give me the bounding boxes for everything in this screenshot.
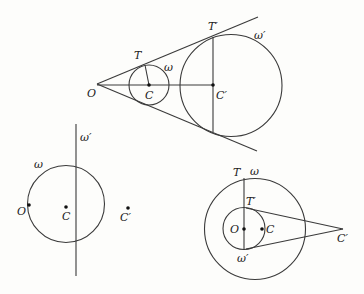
geometry-diagram: O C C′ T T′ ω ω′ O C C′ ω ω′ O C C′ T T′… — [0, 0, 364, 294]
label-omega-prime: ω′ — [254, 29, 266, 42]
label-O: O — [230, 223, 239, 236]
label-C-prime: C′ — [337, 232, 348, 245]
figure-top: O C C′ T T′ ω ω′ — [87, 17, 282, 151]
figure-bottom-left: O C C′ ω ω′ — [17, 124, 131, 276]
label-C: C — [266, 223, 275, 236]
label-T-prime: T′ — [208, 20, 218, 33]
label-omega: ω — [164, 61, 173, 74]
label-O: O — [87, 87, 96, 100]
label-omega-prime: ω′ — [237, 252, 249, 265]
diagram-canvas: O C C′ T T′ ω ω′ O C C′ ω ω′ O C C′ T T′… — [0, 0, 364, 294]
label-omega: ω — [34, 158, 43, 171]
point-C — [260, 227, 264, 231]
label-C-prime: C′ — [120, 211, 131, 224]
label-C-prime: C′ — [216, 89, 227, 102]
point-O — [27, 203, 31, 207]
circle-omega — [28, 166, 105, 243]
label-C: C — [145, 89, 154, 102]
label-T: T — [233, 166, 242, 179]
label-C: C — [62, 210, 71, 223]
upper-tangent-line — [97, 17, 258, 84]
lower-tangent-line — [97, 84, 257, 151]
label-omega: ω — [250, 165, 259, 178]
label-T: T — [134, 49, 143, 62]
label-O: O — [17, 205, 26, 218]
figure-bottom-right: O C C′ T T′ ω ω′ — [205, 165, 349, 280]
point-C — [147, 83, 151, 87]
lower-tangent-from-C-prime — [246, 229, 343, 249]
point-O — [242, 227, 246, 231]
radius-CT — [145, 65, 149, 85]
label-omega-prime: ω′ — [80, 131, 92, 144]
point-C-prime — [126, 206, 130, 210]
label-T-prime: T′ — [246, 195, 256, 208]
upper-tangent-from-C-prime — [246, 208, 343, 229]
point-C-prime — [211, 83, 215, 87]
point-C — [64, 205, 68, 209]
circle-omega — [205, 179, 306, 280]
